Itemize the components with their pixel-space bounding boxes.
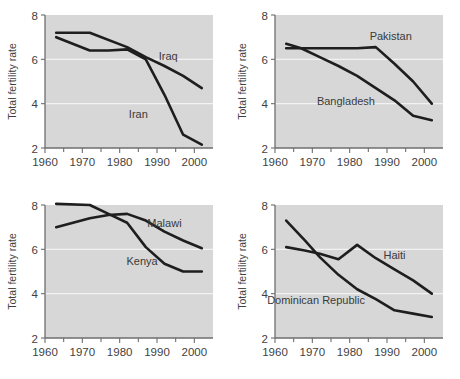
chart-svg-iraq-iran: 246819601970198019902000Total fertility … — [0, 0, 230, 189]
plot-background — [45, 15, 213, 148]
chart-panel-iraq-iran: 246819601970198019902000Total fertility … — [0, 0, 230, 189]
y-axis-tick-label: 6 — [262, 54, 268, 66]
chart-svg-malawi-kenya: 246819601970198019902000Total fertility … — [0, 190, 230, 379]
x-axis-tick-label: 2000 — [412, 156, 438, 168]
x-axis-tick-label: 1960 — [32, 156, 58, 168]
series-label-bangladesh: Bangladesh — [317, 95, 375, 107]
x-axis-tick-label: 1970 — [70, 156, 96, 168]
chart-panel-malawi-kenya: 246819601970198019902000Total fertility … — [0, 190, 230, 379]
x-axis-tick-label: 1990 — [144, 346, 170, 358]
y-axis-tick-label: 2 — [32, 333, 38, 345]
x-axis-tick-label: 1990 — [374, 346, 400, 358]
y-axis-tick-label: 6 — [32, 54, 38, 66]
y-axis-tick-label: 6 — [32, 244, 38, 256]
x-axis-tick-label: 1990 — [374, 156, 400, 168]
x-axis-tick-label: 2000 — [182, 346, 208, 358]
x-axis-tick-label: 1980 — [337, 156, 363, 168]
y-axis-tick-label: 2 — [32, 143, 38, 155]
y-axis-tick-label: 4 — [262, 98, 269, 110]
series-label-malawi: Malawi — [147, 217, 181, 229]
x-axis-tick-label: 1980 — [107, 346, 133, 358]
x-axis-tick-label: 1960 — [262, 156, 288, 168]
x-axis-tick-label: 1960 — [262, 346, 288, 358]
chart-panel-pakistan-bangladesh: 246819601970198019902000Total fertility … — [230, 0, 460, 189]
series-label-haiti: Haiti — [383, 249, 405, 261]
y-axis-tick-label: 2 — [262, 143, 268, 155]
x-axis-tick-label: 1970 — [300, 156, 326, 168]
x-axis-tick-label: 1980 — [107, 156, 133, 168]
series-label-iran: Iran — [129, 108, 148, 120]
y-axis-tick-label: 4 — [32, 98, 39, 110]
chart-svg-haiti-dominican-republic: 246819601970198019902000Total fertility … — [230, 190, 460, 379]
y-axis-tick-label: 4 — [32, 288, 39, 300]
series-label-dominican-republic: Dominican Republic — [267, 294, 365, 306]
y-axis-title: Total fertility rate — [236, 233, 248, 310]
x-axis-tick-label: 2000 — [412, 346, 438, 358]
y-axis-tick-label: 2 — [262, 333, 268, 345]
y-axis-title: Total fertility rate — [236, 43, 248, 120]
fertility-rate-figure: 246819601970198019902000Total fertility … — [0, 0, 460, 379]
y-axis-title: Total fertility rate — [6, 43, 18, 120]
plot-background — [275, 205, 443, 338]
x-axis-tick-label: 1960 — [32, 346, 58, 358]
series-label-kenya: Kenya — [126, 255, 158, 267]
y-axis-tick-label: 8 — [32, 200, 38, 212]
x-axis-tick-label: 1980 — [337, 346, 363, 358]
series-label-pakistan: Pakistan — [370, 30, 412, 42]
chart-panel-haiti-dominican-republic: 246819601970198019902000Total fertility … — [230, 190, 460, 379]
y-axis-tick-label: 6 — [262, 244, 268, 256]
plot-background — [275, 15, 443, 148]
chart-svg-pakistan-bangladesh: 246819601970198019902000Total fertility … — [230, 0, 460, 189]
y-axis-tick-label: 8 — [262, 200, 268, 212]
x-axis-tick-label: 1970 — [70, 346, 96, 358]
x-axis-tick-label: 1990 — [144, 156, 170, 168]
x-axis-tick-label: 2000 — [182, 156, 208, 168]
x-axis-tick-label: 1970 — [300, 346, 326, 358]
y-axis-tick-label: 8 — [262, 10, 268, 22]
series-label-iraq: Iraq — [159, 50, 178, 62]
y-axis-title: Total fertility rate — [6, 233, 18, 310]
y-axis-tick-label: 8 — [32, 10, 38, 22]
